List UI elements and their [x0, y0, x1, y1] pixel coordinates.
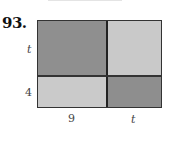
- label-bottom-right: t: [131, 113, 135, 126]
- figure-border: [37, 20, 162, 108]
- top-edge-rule: [48, 0, 122, 1]
- problem-number: 93.: [2, 14, 27, 32]
- label-left-bottom: 4: [25, 86, 32, 99]
- area-model-figure: [37, 20, 162, 108]
- label-left-top: t: [27, 43, 31, 56]
- label-bottom-left: 9: [68, 112, 75, 125]
